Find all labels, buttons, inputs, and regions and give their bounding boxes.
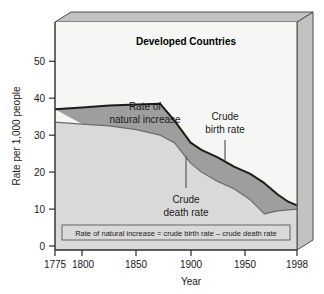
y-axis-title: Rate per 1,000 people: [11, 86, 22, 185]
annotation-crude-death-rate-line2: death rate: [163, 207, 208, 218]
annotation-crude-birth-rate-line1: Crude: [211, 111, 239, 122]
annotation-crude-birth-rate-line2: birth rate: [205, 124, 245, 135]
y-tick-label-20: 20: [34, 167, 46, 178]
x-axis-ticks: [55, 250, 297, 256]
x-tick-label-1950: 1950: [234, 259, 257, 270]
chart-title: Developed Countries: [136, 36, 236, 47]
x-axis-tick-labels: 1775 1800 1850 1900 1950 1998: [44, 259, 309, 270]
annotation-crude-death-rate-line1: Crude: [172, 194, 200, 205]
y-tick-label-10: 10: [34, 204, 46, 215]
annotation-rate-of-natural-increase-line1: Rate of: [129, 101, 161, 112]
chart-canvas: 0 10 20 30 40 50 1775 1800 1850 1900 195…: [0, 0, 324, 294]
frame-right-panel: [297, 12, 313, 250]
y-tick-label-0: 0: [39, 241, 45, 252]
y-tick-label-40: 40: [34, 93, 46, 104]
y-tick-label-50: 50: [34, 56, 46, 67]
y-tick-label-30: 30: [34, 130, 46, 141]
footnote-text: Rate of natural increase = crude birth r…: [75, 229, 277, 238]
x-tick-label-1800: 1800: [72, 259, 95, 270]
frame-top-panel: [55, 12, 313, 22]
annotation-rate-of-natural-increase-line2: natural increase: [109, 114, 181, 125]
y-axis-ticks: [49, 61, 55, 246]
chart-figure: 0 10 20 30 40 50 1775 1800 1850 1900 195…: [0, 0, 324, 294]
x-tick-label-1775: 1775: [44, 259, 67, 270]
x-tick-label-1900: 1900: [180, 259, 203, 270]
x-tick-label-1850: 1850: [125, 259, 148, 270]
y-axis-tick-labels: 0 10 20 30 40 50: [34, 56, 46, 252]
x-tick-label-1998: 1998: [286, 259, 309, 270]
x-axis-title: Year: [181, 276, 202, 287]
